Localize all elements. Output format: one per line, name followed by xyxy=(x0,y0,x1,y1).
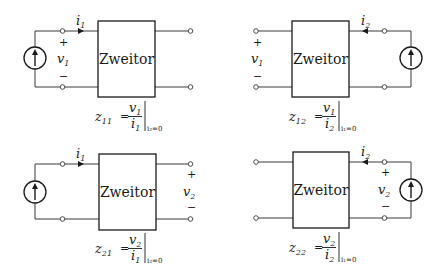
terminal-2-top xyxy=(382,29,387,34)
minus-sign: − xyxy=(381,200,390,213)
plus-sign: + xyxy=(253,36,262,49)
panel-z22: i2 + − v2 Zweitor z22 = v2 i2 i₁=0 xyxy=(254,144,422,264)
terminal-2-top xyxy=(382,160,387,165)
svg-text:z12: z12 xyxy=(288,109,306,126)
terminal-2-top xyxy=(188,162,193,167)
terminal-2-top xyxy=(188,29,193,34)
panel-z21: i1 + − v2 Zweitor z21 = v2 i1 i₂=0 xyxy=(24,146,196,265)
svg-text:=: = xyxy=(314,110,323,123)
terminal-1-top xyxy=(60,162,65,167)
svg-text:v1: v1 xyxy=(323,100,335,117)
terminal-2-bottom xyxy=(382,216,387,221)
terminal-1-bottom xyxy=(254,216,259,221)
terminal-1-bottom xyxy=(60,85,65,90)
svg-text:z11: z11 xyxy=(94,109,112,126)
svg-text:z22: z22 xyxy=(288,240,306,257)
plus-sign: + xyxy=(187,168,196,181)
z-parameter-diagram: i1 + − v1 Zweitor z11 = v1 i1 i₂=0 xyxy=(0,0,445,275)
formula-z11: z11 = v1 i1 i₂=0 xyxy=(94,100,162,133)
terminal-1-bottom xyxy=(60,217,65,222)
voltage-label: v1 xyxy=(251,51,263,68)
current-label: i2 xyxy=(361,13,370,30)
input-wires xyxy=(258,162,293,218)
zweitor-label: Zweitor xyxy=(293,182,349,198)
plus-sign: + xyxy=(59,36,68,49)
minus-sign: − xyxy=(253,70,262,83)
svg-text:z21: z21 xyxy=(94,241,112,258)
svg-text:i2: i2 xyxy=(325,116,334,133)
terminal-2-bottom xyxy=(382,85,387,90)
formula-z21: z21 = v2 i1 i₂=0 xyxy=(94,232,162,265)
svg-text:i₂=0: i₂=0 xyxy=(147,125,162,133)
voltage-label: v2 xyxy=(183,184,195,201)
svg-text:i₁=0: i₁=0 xyxy=(341,256,356,264)
terminal-1-bottom xyxy=(254,85,259,90)
terminal-1-top xyxy=(60,29,65,34)
svg-text:i1: i1 xyxy=(131,248,140,265)
terminal-1-top xyxy=(254,29,259,34)
zweitor-label: Zweitor xyxy=(100,184,156,200)
zweitor-label: Zweitor xyxy=(99,51,155,67)
current-source-icon xyxy=(400,179,422,201)
minus-sign: − xyxy=(187,201,196,214)
svg-text:i₂=0: i₂=0 xyxy=(147,257,162,265)
zweitor-label: Zweitor xyxy=(293,51,349,67)
current-source-icon xyxy=(24,47,46,69)
svg-text:v2: v2 xyxy=(129,232,141,249)
voltage-label: v2 xyxy=(378,182,390,199)
formula-z12: z12 = v1 i2 i₁=0 xyxy=(288,100,356,133)
panel-z12: i2 + − v1 Zweitor z12 = v1 i2 i₁=0 xyxy=(251,13,422,133)
current-label: i1 xyxy=(76,13,85,30)
plus-sign: + xyxy=(381,166,390,179)
output-wires xyxy=(155,31,188,87)
svg-text:=: = xyxy=(120,242,129,255)
terminal-2-bottom xyxy=(188,217,193,222)
minus-sign: − xyxy=(59,70,68,83)
svg-text:=: = xyxy=(120,110,129,123)
svg-text:=: = xyxy=(314,241,323,254)
current-source-icon xyxy=(400,47,422,69)
terminal-1-top xyxy=(254,160,259,165)
current-label: i1 xyxy=(76,146,85,163)
svg-text:i2: i2 xyxy=(325,247,334,264)
terminal-2-bottom xyxy=(188,85,193,90)
formula-z22: z22 = v2 i2 i₁=0 xyxy=(288,231,356,264)
voltage-label: v1 xyxy=(57,51,69,68)
current-source-icon xyxy=(24,181,46,203)
current-label: i2 xyxy=(361,144,370,161)
svg-text:i1: i1 xyxy=(131,116,140,133)
svg-text:v2: v2 xyxy=(323,231,335,248)
svg-text:v1: v1 xyxy=(129,100,141,117)
svg-text:i₁=0: i₁=0 xyxy=(341,125,356,133)
panel-z11: i1 + − v1 Zweitor z11 = v1 i1 i₂=0 xyxy=(24,13,193,133)
